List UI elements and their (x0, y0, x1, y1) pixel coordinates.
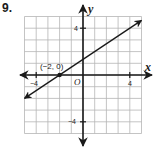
y-axis-label: y (86, 2, 94, 16)
point-marker (57, 73, 61, 77)
origin-label: O (74, 77, 81, 87)
x-axis-label: x (144, 60, 151, 74)
point-label: (−2, 0) (40, 62, 64, 71)
x-tick-label-neg4: −4 (30, 80, 38, 87)
y-tick-label-neg4: −4 (68, 118, 76, 125)
x-tick-label-4: 4 (128, 80, 132, 87)
coordinate-graph: x y O −4 4 4 −4 (−2, 0) (0, 0, 159, 151)
y-tick-label-4: 4 (74, 25, 78, 32)
